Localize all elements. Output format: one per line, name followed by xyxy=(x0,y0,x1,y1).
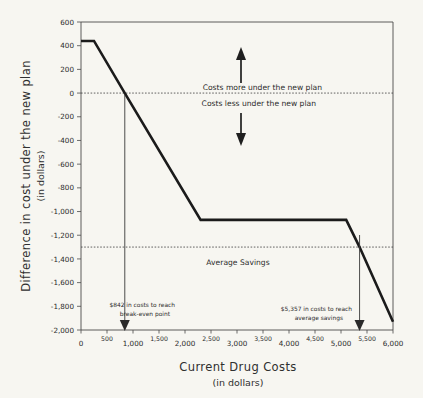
cost-difference-line-chart: 6004002000-200-400-600-800-1,000-1,200-1… xyxy=(0,0,423,398)
y-tick-label: -200 xyxy=(58,112,75,121)
annotation-costs-less: Costs less under the new plan xyxy=(202,99,317,108)
chart-container: 6004002000-200-400-600-800-1,000-1,200-1… xyxy=(0,0,423,398)
x-tick-label: 4,500 xyxy=(306,335,324,342)
y-tick-label: -400 xyxy=(58,136,75,145)
x-tick-label: 3,500 xyxy=(254,335,272,342)
y-tick-label: -800 xyxy=(58,183,75,192)
y-tick-label: 400 xyxy=(60,41,74,50)
x-tick-label: 2,000 xyxy=(175,339,196,348)
y-tick-label: -1,000 xyxy=(51,207,75,216)
y-tick-label: 600 xyxy=(60,18,74,27)
y-axis-title: Difference in cost under the new plan xyxy=(19,60,33,292)
x-tick-label: 6,000 xyxy=(383,339,404,348)
callout-break-even-line2: break-even point xyxy=(120,311,171,318)
x-tick-label: 500 xyxy=(101,335,113,342)
annotation-average-savings-label: Average Savings xyxy=(206,258,269,267)
x-tick-label: 1,500 xyxy=(150,335,168,342)
y-tick-label: 0 xyxy=(69,89,74,98)
y-tick-label: 200 xyxy=(60,65,74,74)
callout-average-savings-line1: $5,357 in costs to reach xyxy=(281,306,352,312)
callout-average-savings-line2: average savings xyxy=(295,315,343,322)
y-tick-label: -1,800 xyxy=(51,302,75,311)
y-axis-subtitle: (in dollars) xyxy=(35,151,46,202)
callout-break-even-line1: $842 in costs to reach xyxy=(109,302,175,308)
y-tick-label: -1,600 xyxy=(51,278,75,287)
x-tick-label: 5,000 xyxy=(331,339,352,348)
x-tick-label: 2,500 xyxy=(202,335,220,342)
x-tick-label: 5,500 xyxy=(358,335,376,342)
y-tick-label: -1,400 xyxy=(51,255,75,264)
y-tick-label: -600 xyxy=(58,160,75,169)
annotation-costs-more: Costs more under the new plan xyxy=(203,83,323,92)
x-axis-subtitle: (in dollars) xyxy=(213,377,264,388)
x-tick-label: 4,000 xyxy=(279,339,300,348)
y-tick-label: -2,000 xyxy=(51,326,75,335)
x-tick-label: 3,000 xyxy=(227,339,248,348)
x-tick-label: 1,000 xyxy=(123,339,144,348)
y-tick-label: -1,200 xyxy=(51,231,75,240)
x-axis-title: Current Drug Costs xyxy=(179,360,296,374)
x-tick-label: 0 xyxy=(79,339,84,348)
